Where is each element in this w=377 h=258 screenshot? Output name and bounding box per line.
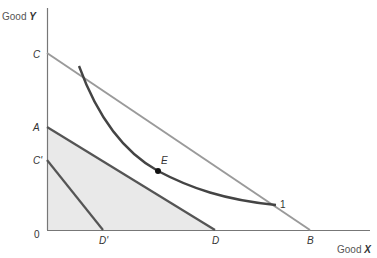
label-c: C bbox=[33, 49, 41, 60]
label-e: E bbox=[161, 155, 168, 166]
label-origin: 0 bbox=[34, 229, 40, 240]
label-d-prime: D' bbox=[99, 235, 109, 246]
budget-indifference-diagram: Good Y Good X C A C' 0 D' D B E 1 bbox=[0, 0, 377, 258]
label-indifference-curve-1: 1 bbox=[280, 199, 286, 210]
label-d: D bbox=[212, 235, 219, 246]
label-c-prime: C' bbox=[33, 155, 43, 166]
label-b: B bbox=[307, 235, 314, 246]
x-axis-label: Good X bbox=[337, 244, 372, 255]
y-axis-label: Good Y bbox=[2, 11, 37, 22]
label-a: A bbox=[32, 122, 40, 133]
tangency-point-e bbox=[155, 168, 161, 174]
